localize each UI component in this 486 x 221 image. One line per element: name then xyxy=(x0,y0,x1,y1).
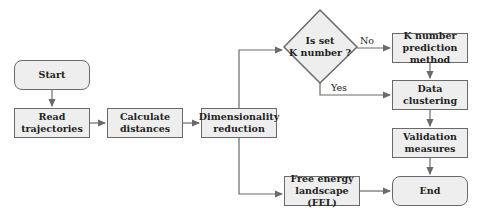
validation-measures-label: Validation measures xyxy=(403,131,457,155)
calculate-distances-label: Calculate distances xyxy=(120,111,170,135)
end-node: End xyxy=(392,176,468,206)
start-label: Start xyxy=(39,69,66,81)
start-node: Start xyxy=(14,60,90,90)
edge-label-no: No xyxy=(360,35,374,46)
k-number-prediction-node: K number prediction method xyxy=(392,33,468,63)
dimensionality-reduction-node: Dimensionality reduction xyxy=(201,108,277,138)
flowchart-canvas: Start Read trajectories Calculate distan… xyxy=(0,0,486,221)
data-clustering-node: Data clustering xyxy=(392,80,468,110)
data-clustering-label: Data clustering xyxy=(403,83,457,107)
decision-label-wrap: Is set K number ? xyxy=(284,30,356,64)
read-trajectories-node: Read trajectories xyxy=(14,108,90,138)
free-energy-landscape-label: Free energy landscape (FEL) xyxy=(285,173,359,209)
read-trajectories-label: Read trajectories xyxy=(21,111,83,135)
k-number-prediction-label: K number prediction method xyxy=(393,30,467,66)
arrow-dimred-decision xyxy=(239,50,282,108)
validation-measures-node: Validation measures xyxy=(392,128,468,158)
calculate-distances-node: Calculate distances xyxy=(107,108,183,138)
free-energy-landscape-node: Free energy landscape (FEL) xyxy=(284,176,360,206)
arrow-dimred-fel xyxy=(239,138,282,194)
decision-label: Is set K number ? xyxy=(289,35,351,59)
end-label: End xyxy=(420,185,441,197)
edge-label-yes: Yes xyxy=(331,82,347,93)
dimensionality-reduction-label: Dimensionality reduction xyxy=(199,111,279,135)
